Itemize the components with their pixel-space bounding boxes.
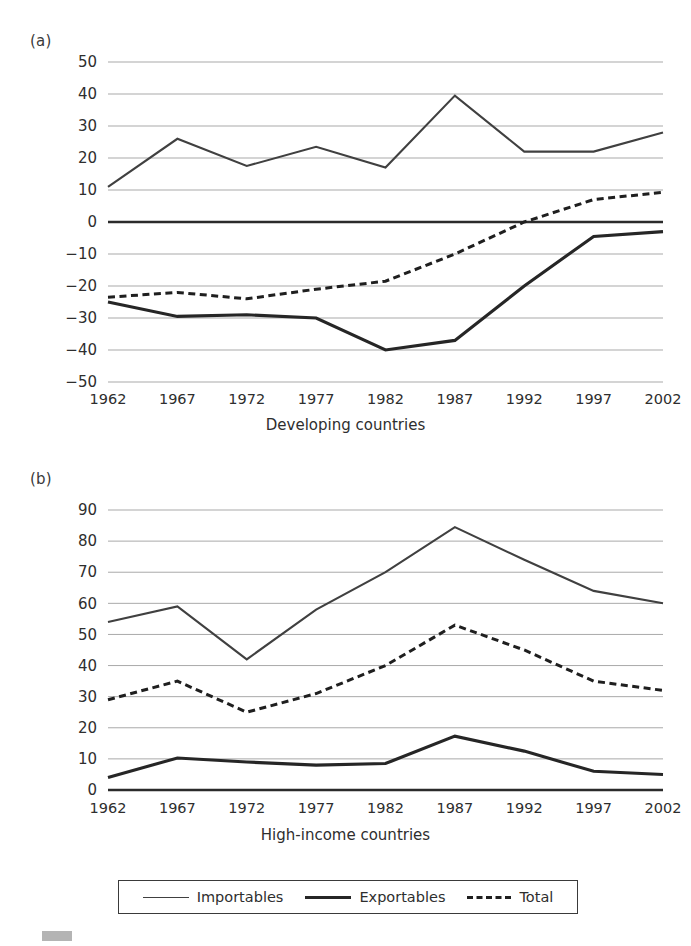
x-axis-tick-label: 2002 xyxy=(645,800,682,816)
x-axis-tick-label: 1987 xyxy=(436,800,473,816)
y-axis-tick-label: 10 xyxy=(78,750,97,768)
y-axis-tick-label: −10 xyxy=(65,245,97,263)
x-axis-tick-label: 1962 xyxy=(90,800,127,816)
y-axis-tick-label: 0 xyxy=(87,213,97,231)
y-axis-tick-label: 0 xyxy=(87,781,97,799)
x-axis-tick-label: 1972 xyxy=(228,800,265,816)
y-axis-tick-label: 10 xyxy=(78,181,97,199)
y-axis-tick-label: 20 xyxy=(78,719,97,737)
series-line-exportables xyxy=(108,736,663,777)
x-axis-tick-label: 1997 xyxy=(575,800,612,816)
panel-a-caption: Developing countries xyxy=(0,416,691,434)
legend-swatch-exportables-icon xyxy=(305,896,351,899)
legend-item-exportables: Exportables xyxy=(305,889,445,905)
x-axis-tick-label: 1997 xyxy=(575,391,612,407)
chart-panel-a: (a) 50403020100−10−20−30−40−501962196719… xyxy=(0,24,691,444)
x-axis-tick-label: 2002 xyxy=(645,391,682,407)
x-axis-tick-label: 1962 xyxy=(90,391,127,407)
x-axis-tick-label: 1967 xyxy=(159,800,196,816)
x-axis-tick-label: 1977 xyxy=(298,391,335,407)
x-axis-tick-label: 1967 xyxy=(159,391,196,407)
x-axis-tick-label: 1992 xyxy=(506,800,543,816)
panel-b-caption: High-income countries xyxy=(0,826,691,844)
series-line-importables xyxy=(108,96,663,187)
x-axis-tick-label: 1982 xyxy=(367,391,404,407)
y-axis-tick-label: 30 xyxy=(78,117,97,135)
chart-panel-b: (b) 908070605040302010019621967197219771… xyxy=(0,468,691,858)
legend-item-total: Total xyxy=(467,889,553,905)
legend-swatch-total-icon xyxy=(467,896,511,899)
x-axis-tick-label: 1987 xyxy=(436,391,473,407)
plot-area-b: 9080706050403020100196219671972197719821… xyxy=(0,468,691,838)
y-axis-tick-label: −20 xyxy=(65,277,97,295)
y-axis-tick-label: 20 xyxy=(78,149,97,167)
x-axis-tick-label: 1982 xyxy=(367,800,404,816)
x-axis-tick-label: 1977 xyxy=(298,800,335,816)
legend-swatch-importables-icon xyxy=(143,897,189,898)
series-line-importables xyxy=(108,527,663,659)
x-axis-tick-label: 1992 xyxy=(506,391,543,407)
series-line-total xyxy=(108,625,663,712)
legend-item-importables: Importables xyxy=(143,889,284,905)
page-scan-artifact xyxy=(42,931,72,941)
legend-label-total: Total xyxy=(519,889,553,905)
plot-area-a: 50403020100−10−20−30−40−5019621967197219… xyxy=(0,24,691,424)
y-axis-tick-label: −50 xyxy=(65,373,97,391)
x-axis-tick-label: 1972 xyxy=(228,391,265,407)
y-axis-tick-label: 40 xyxy=(78,657,97,675)
series-line-exportables xyxy=(108,232,663,350)
y-axis-tick-label: 40 xyxy=(78,85,97,103)
y-axis-tick-label: 50 xyxy=(78,626,97,644)
y-axis-tick-label: −40 xyxy=(65,341,97,359)
chart-legend: Importables Exportables Total xyxy=(118,880,578,914)
figure-root: (a) 50403020100−10−20−30−40−501962196719… xyxy=(0,0,691,946)
y-axis-tick-label: 80 xyxy=(78,532,97,550)
y-axis-tick-label: 70 xyxy=(78,563,97,581)
legend-label-exportables: Exportables xyxy=(359,889,445,905)
y-axis-tick-label: 30 xyxy=(78,688,97,706)
legend-label-importables: Importables xyxy=(197,889,284,905)
y-axis-tick-label: −30 xyxy=(65,309,97,327)
y-axis-tick-label: 50 xyxy=(78,53,97,71)
y-axis-tick-label: 60 xyxy=(78,595,97,613)
y-axis-tick-label: 90 xyxy=(78,501,97,519)
